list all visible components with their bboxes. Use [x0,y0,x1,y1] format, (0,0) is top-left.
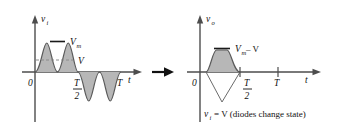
left-chart-group: V m V v i t 0 T 2 T [22,14,142,122]
left-chart-t2-denominator: 2 [75,91,80,101]
transition-arrow-head [164,67,174,77]
right-chart-x-axis-arrowhead [313,69,322,75]
transition-arrow [152,67,174,77]
annotation-symbol: v [204,109,209,119]
right-chart-tick-label-t-over-2: T 2 [243,78,252,101]
annotation-subscript: i [210,114,212,121]
right-chart-origin-label: 0 [192,78,197,88]
left-chart-origin-label: 0 [28,78,33,88]
left-chart-y-axis-subscript: i [47,19,49,26]
right-chart-tick-label-t: T [274,78,280,88]
waveform-figure: V m V v i t 0 T 2 T [0,0,339,129]
right-chart-v-dip [206,72,240,102]
right-chart-y-axis-label: v [206,14,211,24]
right-chart-t2-denominator: 2 [245,91,250,101]
left-chart-tick-label-t: T [117,78,123,88]
left-chart-level-label: V [78,56,85,66]
figure-canvas: V m V v i t 0 T 2 T [0,0,339,129]
left-chart-tick-label-t-over-2: T 2 [73,78,82,101]
left-chart-x-axis-label: t [128,75,131,85]
left-chart-x-axis-arrowhead [134,69,143,75]
right-chart-x-axis-label: t [305,75,308,85]
right-chart-peak-suffix: – V [245,44,260,54]
right-chart-y-axis-subscript: o [212,19,216,26]
annotation-equation: = V (diodes change state) [214,109,306,119]
right-chart-group: V m – V v o t 0 T 2 T v i = V (diodes c [187,14,321,122]
left-chart-peak-subscript: m [77,42,82,49]
right-chart-y-axis-arrowhead [197,15,203,24]
left-chart-y-axis-label: v [41,14,46,24]
right-chart-annotation: v i = V (diodes change state) [204,109,306,121]
left-chart-y-axis-arrowhead [32,15,38,24]
left-chart-t2-numerator: T [74,78,80,88]
right-chart-t2-numerator: T [244,78,250,88]
